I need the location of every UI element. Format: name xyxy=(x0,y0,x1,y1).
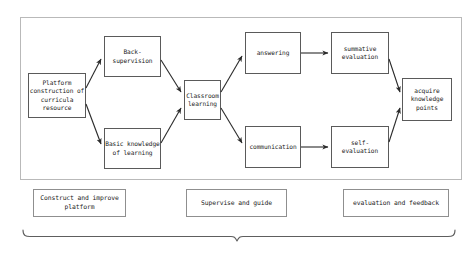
edge-classroom-to-answering xyxy=(221,56,242,92)
edge-summative-evaluation-to-acquire-knowledge xyxy=(389,59,400,92)
edge-platform-to-basic-knowledge xyxy=(86,104,101,144)
edge-back-supervision-to-classroom xyxy=(161,60,181,92)
edge-platform-to-back-supervision xyxy=(86,59,101,88)
diagram-canvas xyxy=(0,0,475,257)
node-box-acquire-knowledge[interactable] xyxy=(403,79,452,121)
caption-box-evaluation-and-feedback[interactable] xyxy=(344,190,449,217)
caption-box-supervise-and-guide[interactable] xyxy=(187,190,287,217)
node-box-classroom-learning[interactable] xyxy=(185,81,221,120)
edge-classroom-to-communication xyxy=(221,108,242,143)
edge-basic-knowledge-to-classroom xyxy=(161,108,181,143)
node-box-platform[interactable] xyxy=(29,74,86,118)
diagram-outer-frame xyxy=(21,18,462,180)
edge-self-evaluation-to-acquire-knowledge xyxy=(389,108,400,142)
diagram-page: Platform construction of curricula resou… xyxy=(0,0,475,257)
node-box-communication[interactable] xyxy=(246,127,301,168)
node-box-summative-evaluation[interactable] xyxy=(332,33,389,74)
node-box-self-evaluation[interactable] xyxy=(332,127,389,168)
bottom-brace xyxy=(23,230,455,241)
caption-box-construct-and-improve-platform[interactable] xyxy=(34,190,126,217)
node-box-answering[interactable] xyxy=(246,33,301,74)
node-box-basic-knowledge[interactable] xyxy=(105,129,161,169)
node-box-back-supervision[interactable] xyxy=(105,37,161,77)
